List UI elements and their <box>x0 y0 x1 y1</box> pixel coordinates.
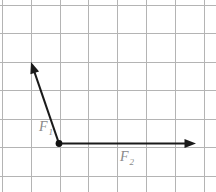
vector-arrowhead-F1 <box>30 62 39 74</box>
diagram-canvas: F1F2 <box>0 0 216 192</box>
vector-label-f2: F2 <box>119 149 135 167</box>
grid-vertical-lines <box>3 0 205 192</box>
vector-label-f2-subscript: 2 <box>130 157 135 167</box>
force-vector-diagram: F1F2 <box>0 0 216 192</box>
vector-arrowhead-F2 <box>185 139 197 148</box>
grid-horizontal-lines <box>0 6 216 177</box>
vector-origin-dot <box>56 140 63 147</box>
vector-group <box>30 62 196 148</box>
vector-label-f1-subscript: 1 <box>49 127 54 137</box>
